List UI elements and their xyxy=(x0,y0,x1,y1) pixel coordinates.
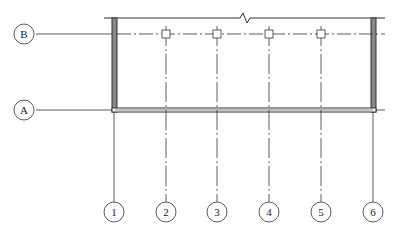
grid-label-A: A xyxy=(20,104,28,116)
column-5B xyxy=(317,30,325,38)
wall-outline xyxy=(112,18,376,112)
grid-label-B: B xyxy=(20,28,27,40)
grid-plan-drawing: B A 1 2 3 4 5 6 xyxy=(0,0,399,236)
grid-label-1: 1 xyxy=(111,206,117,218)
grid-label-2: 2 xyxy=(163,206,169,218)
row-grid-B: B xyxy=(14,24,385,44)
column-4B xyxy=(265,30,273,38)
column-3B xyxy=(213,30,221,38)
column-bubbles: 1 2 3 4 5 6 xyxy=(104,202,383,222)
column-2B xyxy=(162,30,170,38)
grid-label-5: 5 xyxy=(318,206,324,218)
column-grids xyxy=(114,26,373,202)
grid-label-6: 6 xyxy=(370,206,376,218)
grid-label-3: 3 xyxy=(214,206,220,218)
break-line xyxy=(104,13,385,23)
grid-label-4: 4 xyxy=(266,206,272,218)
